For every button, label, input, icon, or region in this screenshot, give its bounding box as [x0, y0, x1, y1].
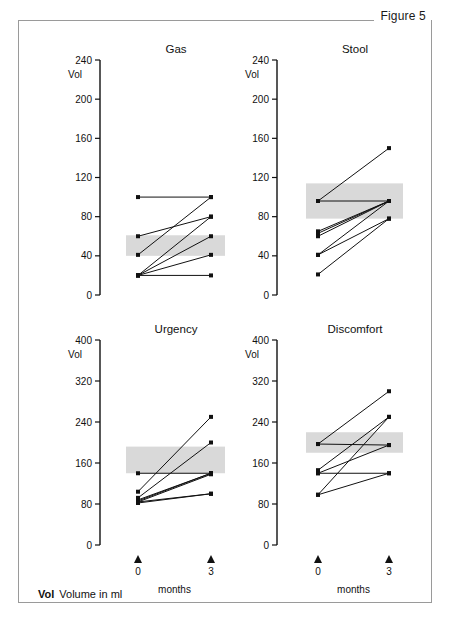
charts-canvas: 04080120160200240GasVol04080120160200240… [18, 20, 432, 603]
data-point [136, 234, 140, 238]
data-point [387, 199, 391, 203]
chart-panel-urgency: 080160240320400UrgencyVol03months [68, 323, 225, 595]
y-tick-label: 240 [75, 417, 92, 428]
series-line-subject-6 [318, 417, 389, 495]
x-axis-marker-1 [385, 555, 393, 563]
y-axis-title: Vol [245, 349, 259, 360]
y-tick-label: 0 [263, 290, 269, 301]
y-tick-label: 40 [258, 250, 270, 261]
y-tick-label: 200 [75, 94, 92, 105]
data-point [316, 234, 320, 238]
y-tick-label: 120 [75, 172, 92, 183]
y-tick-label: 80 [258, 211, 270, 222]
chart-panel-gas: 04080120160200240GasVol [68, 43, 225, 301]
x-tick-label: 0 [315, 566, 321, 577]
x-axis-marker-0 [134, 555, 142, 563]
x-axis-title: months [337, 584, 370, 595]
data-point [316, 493, 320, 497]
data-point [387, 389, 391, 393]
y-tick-label: 40 [81, 250, 93, 261]
data-point [136, 253, 140, 257]
y-tick-label: 80 [81, 211, 93, 222]
chart-panel-stool: 04080120160200240StoolVol [245, 43, 403, 301]
chart-title: Stool [342, 43, 368, 55]
y-tick-label: 240 [252, 55, 269, 66]
y-tick-label: 240 [252, 417, 269, 428]
data-point [387, 443, 391, 447]
data-point [387, 217, 391, 221]
data-point [316, 471, 320, 475]
y-tick-label: 160 [75, 458, 92, 469]
y-tick-label: 0 [86, 540, 92, 551]
data-point [387, 415, 391, 419]
y-tick-label: 160 [252, 458, 269, 469]
data-point [209, 415, 213, 419]
data-point [136, 501, 140, 505]
footnote-abbrev: Vol [38, 588, 54, 600]
y-tick-label: 200 [252, 94, 269, 105]
data-point [136, 195, 140, 199]
series-line-subject-5 [138, 473, 211, 501]
chart-title: Discomfort [328, 323, 384, 335]
y-tick-label: 320 [75, 376, 92, 387]
data-point [209, 234, 213, 238]
data-point [209, 472, 213, 476]
x-tick-label: 3 [208, 566, 214, 577]
data-point [387, 471, 391, 475]
data-point [209, 492, 213, 496]
chart-title: Urgency [155, 323, 198, 335]
y-tick-label: 240 [75, 55, 92, 66]
data-point [387, 146, 391, 150]
data-point [209, 441, 213, 445]
y-tick-label: 400 [75, 335, 92, 346]
footnote: VolVolume in ml [38, 588, 122, 600]
y-tick-label: 120 [252, 172, 269, 183]
y-tick-label: 0 [263, 540, 269, 551]
x-tick-label: 3 [386, 566, 392, 577]
y-tick-label: 320 [252, 376, 269, 387]
data-point [316, 442, 320, 446]
x-axis-marker-0 [314, 555, 322, 563]
data-point [316, 272, 320, 276]
series-line-subject-8 [138, 494, 211, 503]
data-point [316, 253, 320, 257]
y-tick-label: 160 [252, 133, 269, 144]
chart-panel-discomfort: 080160240320400DiscomfortVol03months [245, 323, 403, 595]
y-tick-label: 0 [86, 290, 92, 301]
x-axis-marker-1 [207, 555, 215, 563]
series-line-subject-7 [318, 219, 389, 255]
x-tick-label: 0 [135, 566, 141, 577]
chart-title: Gas [165, 43, 186, 55]
series-line-subject-7 [318, 473, 389, 495]
data-point [209, 273, 213, 277]
y-tick-label: 80 [258, 499, 270, 510]
series-line-subject-6 [138, 255, 211, 276]
y-axis-title: Vol [68, 349, 82, 360]
data-point [136, 490, 140, 494]
data-point [209, 195, 213, 199]
y-tick-label: 160 [75, 133, 92, 144]
figure-page: Figure 5 04080120160200240GasVol04080120… [0, 0, 453, 628]
data-point [136, 471, 140, 475]
data-point [209, 215, 213, 219]
data-point [136, 273, 140, 277]
data-point [316, 199, 320, 203]
y-tick-label: 400 [252, 335, 269, 346]
y-axis-title: Vol [245, 69, 259, 80]
footnote-text: Volume in ml [59, 588, 122, 600]
x-axis-title: months [158, 584, 191, 595]
y-axis-title: Vol [68, 69, 82, 80]
chart-grid: 04080120160200240GasVol04080120160200240… [18, 20, 432, 603]
data-point [209, 253, 213, 257]
y-tick-label: 80 [81, 499, 93, 510]
